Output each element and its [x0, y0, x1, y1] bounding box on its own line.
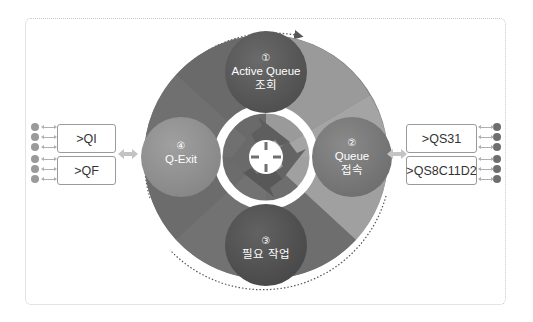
right-node-dot: [493, 155, 501, 163]
right-node-dot: [493, 143, 501, 151]
right-link-arrow-icon: [480, 179, 492, 180]
left-node-dot: [31, 175, 39, 183]
step-2-subtitle: 접속: [341, 164, 363, 176]
queue-label: >QS8C11D2: [406, 164, 476, 178]
step-2-label: ② Queue 접속: [335, 137, 370, 178]
left-link-arrow-icon: [43, 137, 55, 138]
step-1-subtitle: 조회: [255, 79, 277, 91]
queue-label: >QI: [76, 132, 97, 146]
left-node-dot: [31, 123, 39, 131]
left-link-arrow-icon: [43, 169, 55, 170]
left-node-dot: [31, 165, 39, 173]
queue-label: >QS31: [422, 132, 461, 146]
step-2-title: Queue: [335, 150, 370, 162]
cycle-arrows-icon: [218, 109, 314, 205]
queue-box-qs8c11d2[interactable]: >QS8C11D2: [406, 156, 477, 185]
step-4-title: Q-Exit: [165, 153, 197, 165]
queue-box-qi[interactable]: >QI: [57, 124, 116, 153]
right-link-arrow-icon: [480, 127, 492, 128]
step-3-subtitle: 필요 작업: [242, 248, 289, 260]
left-link-arrow-icon: [43, 127, 55, 128]
queue-label: >QF: [74, 164, 99, 178]
step-3-number: ③: [242, 235, 289, 247]
step-4-number: ④: [165, 140, 197, 152]
right-link-arrow-icon: [480, 137, 492, 138]
queue-box-qs31[interactable]: >QS31: [406, 124, 477, 153]
left-link-arrow-icon: [43, 179, 55, 180]
left-node-dot: [31, 143, 39, 151]
step-1-label: ① Active Queue 조회: [231, 52, 300, 93]
left-link-arrow-icon: [43, 147, 55, 148]
right-link-arrow-icon: [480, 169, 492, 170]
step-1-title: Active Queue: [231, 65, 300, 77]
right-node-dot: [493, 175, 501, 183]
right-node-dot: [493, 133, 501, 141]
left-node-dot: [31, 155, 39, 163]
left-node-dot: [31, 133, 39, 141]
right-link-arrow-icon: [480, 147, 492, 148]
step-3-label: ③ 필요 작업: [242, 235, 289, 262]
right-node-dot: [493, 165, 501, 173]
left-double-arrow-icon: [118, 149, 138, 159]
right-link-arrow-icon: [480, 159, 492, 160]
step-4-label: ④ Q-Exit: [165, 140, 197, 167]
queue-box-qf[interactable]: >QF: [57, 156, 116, 185]
right-node-dot: [493, 123, 501, 131]
step-1-number: ①: [231, 52, 300, 64]
step-2-number: ②: [335, 137, 370, 149]
left-link-arrow-icon: [43, 159, 55, 160]
